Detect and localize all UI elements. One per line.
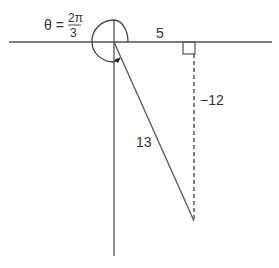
arc-arrowhead-icon [114,57,121,63]
hypotenuse-line [114,42,194,221]
theta-label: θ = [44,17,64,33]
angle-numerator: 2π [68,11,83,25]
angle-arc [92,20,128,62]
trig-diagram: θ = 2π 3 5 −12 13 [0,0,279,268]
adjacent-side-label: 5 [156,25,164,41]
hypotenuse-label: 13 [136,134,152,150]
right-angle-marker [183,42,195,54]
opposite-side-label: −12 [200,92,224,108]
angle-denominator: 3 [70,26,77,40]
